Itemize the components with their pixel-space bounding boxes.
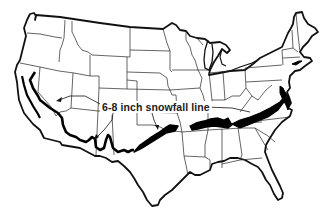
snowfall-line-label: 6-8 inch snowfall line (100, 101, 212, 113)
snowfall-band-central (134, 125, 178, 152)
snowfall-band-long-island (292, 61, 302, 65)
arrow-west (59, 96, 100, 104)
us-map: 6-8 inch snowfall line (0, 0, 329, 215)
arrowhead-west (56, 97, 62, 102)
snowfall-band-east (190, 118, 232, 130)
arrow-southwest (96, 113, 113, 138)
state-boundaries (20, 13, 300, 175)
arrowhead-central (155, 125, 159, 130)
